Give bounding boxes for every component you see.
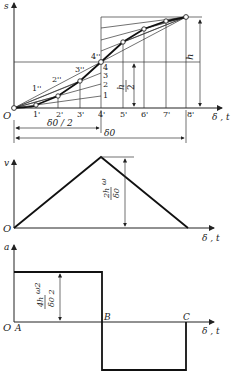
div-2: 2 xyxy=(103,80,108,89)
cam-motion-diagram: h h 2 4 3 2 1 1'' 2'' 3'' 4'' 1' 2' 3' 4… xyxy=(0,0,234,379)
v-axis-label: v xyxy=(4,158,9,168)
point-c-label: C xyxy=(183,312,190,322)
s-origin-label: O xyxy=(3,110,11,121)
s-x-axis-label: δ , t xyxy=(212,112,230,122)
div-1: 1 xyxy=(103,91,108,100)
ray-2: 2'' xyxy=(52,75,62,84)
v-peak-den: δ0 xyxy=(112,188,121,198)
acceleration-plot: 4h ω2 δ0 2 a δ , t O A B C xyxy=(3,242,220,370)
half-h-den: 2 xyxy=(126,84,136,90)
tick-8: 8' xyxy=(187,110,194,119)
velocity-plot: 2h ω δ0 v δ , t O xyxy=(3,157,220,243)
tick-5: 5' xyxy=(120,110,127,119)
tick-4: 4' xyxy=(98,110,105,119)
a-level-omega: ω2 xyxy=(33,282,42,294)
s-axis-label: s xyxy=(4,1,9,11)
div-3: 3 xyxy=(103,71,108,80)
a-level-num: 4h xyxy=(36,297,45,308)
a-level-den: δ0 2 xyxy=(47,289,56,307)
ray-4: 4'' xyxy=(91,52,101,61)
ray-1: 1'' xyxy=(32,84,42,93)
a-axis-label: a xyxy=(4,242,9,252)
half-span-label: δ0 / 2 xyxy=(47,118,73,128)
a-x-axis-label: δ , t xyxy=(202,326,220,336)
full-span-label: δ0 xyxy=(104,128,115,138)
tick-7: 7' xyxy=(163,110,170,119)
tick-3: 3' xyxy=(77,110,84,119)
velocity-curve xyxy=(14,157,188,228)
half-h-num: h xyxy=(116,84,126,90)
v-x-axis-label: δ , t xyxy=(202,233,220,243)
displacement-plot: h h 2 4 3 2 1 1'' 2'' 3'' 4'' 1' 2' 3' 4… xyxy=(3,1,230,143)
a-origin-label: O xyxy=(3,322,11,333)
point-a-label: A xyxy=(14,323,22,333)
v-peak-num: 2h xyxy=(102,188,111,199)
v-origin-label: O xyxy=(3,223,11,234)
point-b-label: B xyxy=(103,312,111,322)
v-peak-omega: ω xyxy=(99,178,108,185)
ray-3: 3'' xyxy=(75,65,85,74)
h-label: h xyxy=(184,54,195,60)
tick-1: 1' xyxy=(33,110,40,119)
tick-6: 6' xyxy=(141,110,148,119)
